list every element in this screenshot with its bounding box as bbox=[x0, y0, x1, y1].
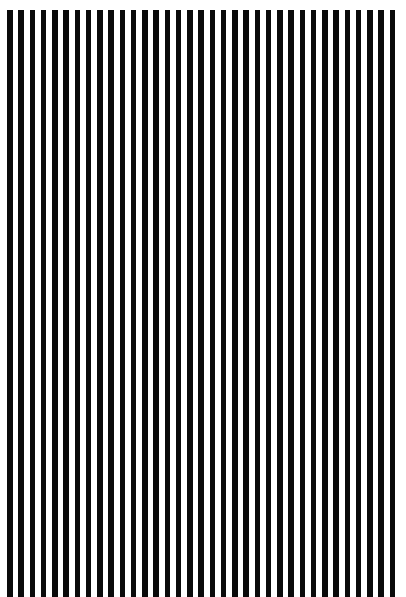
black-stripe bbox=[97, 10, 103, 597]
black-stripe bbox=[18, 10, 24, 597]
black-stripe bbox=[356, 10, 362, 597]
black-stripe bbox=[300, 10, 306, 597]
black-stripe bbox=[41, 10, 47, 597]
black-stripe bbox=[367, 10, 373, 597]
black-stripe bbox=[120, 10, 126, 597]
black-stripe bbox=[176, 10, 182, 597]
black-stripe bbox=[52, 10, 58, 597]
black-stripe bbox=[232, 10, 238, 597]
black-stripe bbox=[165, 10, 171, 597]
black-stripe bbox=[311, 10, 317, 597]
black-stripe bbox=[333, 10, 339, 597]
black-stripe bbox=[131, 10, 137, 597]
black-stripe bbox=[153, 10, 159, 597]
black-stripe bbox=[266, 10, 272, 597]
black-stripe bbox=[390, 10, 396, 597]
vertical-stripe-pattern bbox=[7, 10, 401, 597]
black-stripe bbox=[277, 10, 283, 597]
black-stripe bbox=[255, 10, 261, 597]
black-stripe bbox=[63, 10, 69, 597]
black-stripe bbox=[378, 10, 384, 597]
black-stripe bbox=[243, 10, 249, 597]
black-stripe bbox=[7, 10, 13, 597]
black-stripe bbox=[75, 10, 81, 597]
black-stripe bbox=[142, 10, 148, 597]
black-stripe bbox=[210, 10, 216, 597]
black-stripe bbox=[345, 10, 351, 597]
black-stripe bbox=[198, 10, 204, 597]
black-stripe bbox=[30, 10, 36, 597]
black-stripe bbox=[108, 10, 114, 597]
black-stripe bbox=[221, 10, 227, 597]
black-stripe bbox=[187, 10, 193, 597]
black-stripe bbox=[86, 10, 92, 597]
black-stripe bbox=[288, 10, 294, 597]
black-stripe bbox=[322, 10, 328, 597]
